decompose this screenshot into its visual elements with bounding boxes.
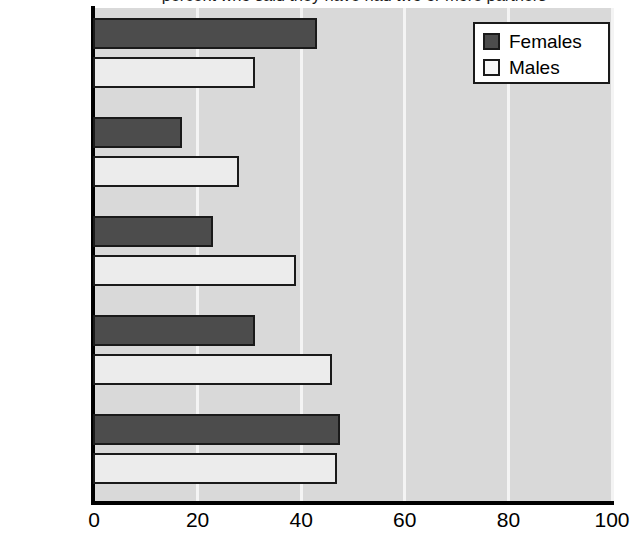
x-tick-label-60: 60 [365, 508, 445, 532]
x-tick-label-40: 40 [261, 508, 341, 532]
gridline-60 [403, 8, 406, 503]
bar-females-france [93, 117, 182, 148]
bar-females-sweden [93, 18, 317, 49]
gridline-100 [611, 8, 614, 503]
x-tick-label-100: 100 [572, 508, 638, 532]
legend-label-males: Males [509, 58, 560, 77]
legend-item-males: Males [483, 54, 608, 80]
bar-males-great-britain [93, 354, 332, 385]
legend-swatch-females-icon [483, 33, 500, 50]
bar-males-united-states [93, 453, 337, 484]
chart-legend: Females Males [473, 22, 610, 84]
x-tick-label-80: 80 [468, 508, 548, 532]
chart-title: percent who said they have had two or mo… [94, 0, 614, 5]
bar-females-canada [93, 216, 213, 247]
bar-males-sweden [93, 57, 255, 88]
bar-females-great-britain [93, 315, 255, 346]
x-tick-label-0: 0 [54, 508, 134, 532]
legend-label-females: Females [509, 32, 582, 51]
legend-swatch-males-icon [483, 59, 500, 76]
bar-males-france [93, 156, 239, 187]
x-tick-label-20: 20 [158, 508, 238, 532]
x-axis-line [91, 501, 614, 505]
bar-chart: percent who said they have had two or mo… [0, 0, 638, 539]
legend-item-females: Females [483, 28, 608, 54]
bar-males-canada [93, 255, 296, 286]
bar-females-united-states [93, 414, 340, 445]
